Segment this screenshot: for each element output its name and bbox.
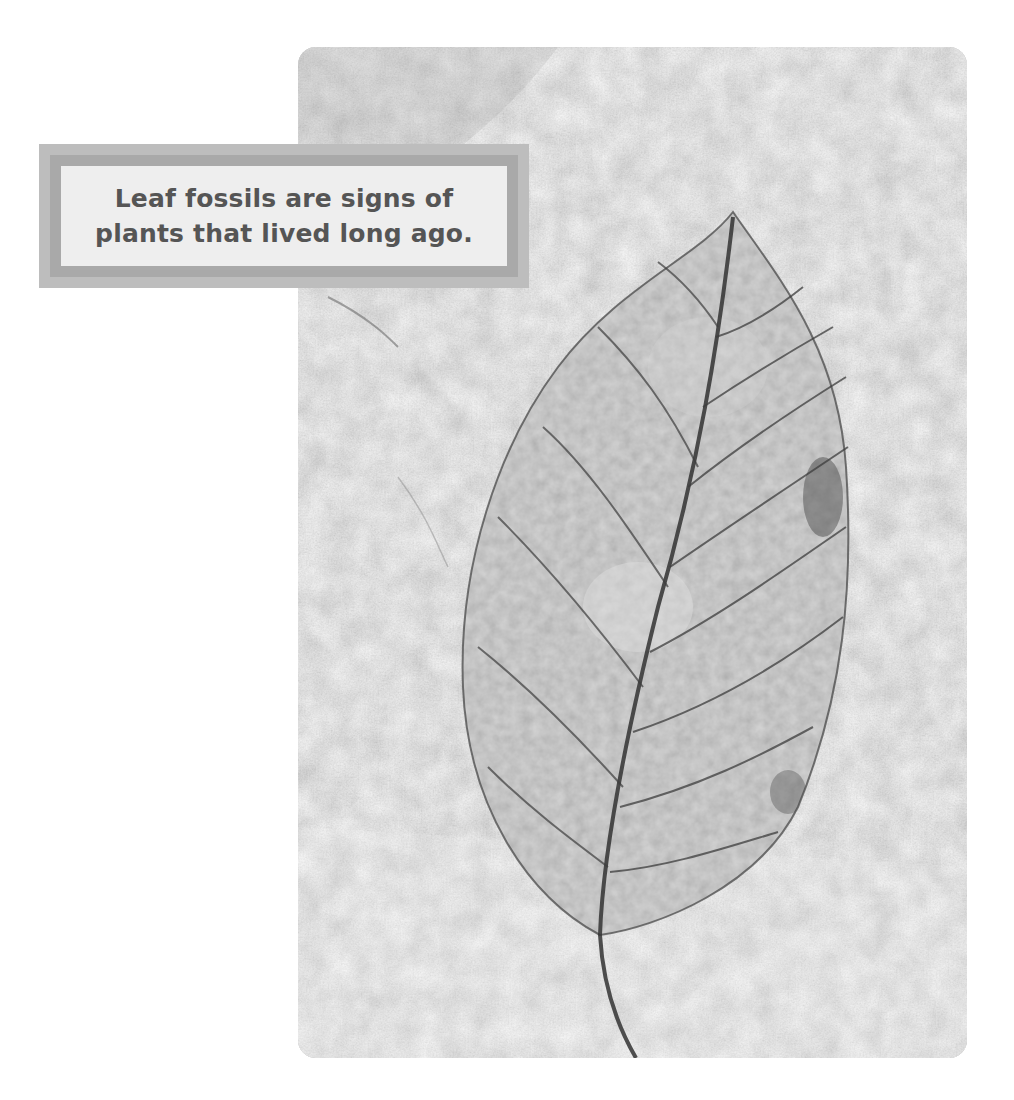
caption-box: Leaf fossils are signs of plants that li… <box>39 144 529 288</box>
caption-line-1: Leaf fossils are signs of <box>115 181 454 216</box>
caption-line-2: plants that lived long ago. <box>95 216 473 251</box>
caption-border: Leaf fossils are signs of plants that li… <box>50 155 518 277</box>
caption-panel: Leaf fossils are signs of plants that li… <box>61 166 507 266</box>
